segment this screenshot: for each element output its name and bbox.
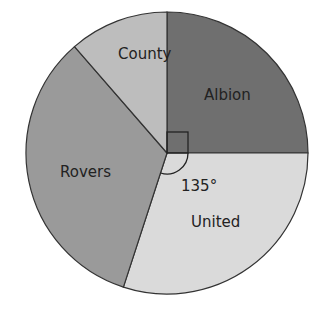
label-rovers: Rovers bbox=[60, 163, 111, 181]
label-albion: Albion bbox=[204, 86, 251, 104]
label-county: County bbox=[118, 45, 172, 63]
pie-chart: County Albion Rovers 135° United bbox=[0, 0, 328, 330]
label-angle: 135° bbox=[181, 177, 217, 195]
label-united: United bbox=[191, 213, 240, 231]
